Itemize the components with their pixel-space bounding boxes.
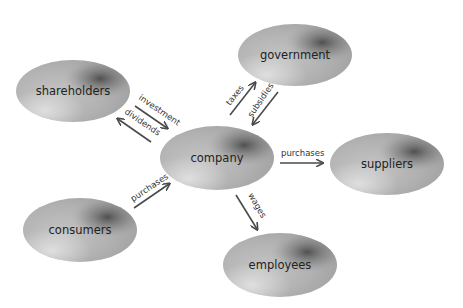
edge-wages: wages — [236, 191, 269, 229]
node-company: company — [160, 126, 274, 190]
node-label: government — [260, 48, 331, 62]
edge-purchases-consumers: purchases — [129, 171, 171, 208]
node-employees: employees — [223, 233, 337, 297]
node-shareholders: shareholders — [16, 60, 130, 122]
node-label: company — [190, 151, 243, 165]
node-label: suppliers — [361, 157, 413, 171]
node-consumers: consumers — [23, 198, 137, 262]
node-government: government — [238, 24, 352, 86]
edge-subsidies: subsidies — [245, 80, 278, 124]
flow-diagram: shareholders government company supplier… — [0, 0, 463, 308]
node-label: shareholders — [36, 84, 111, 98]
edge-purchases-suppliers: purchases — [280, 148, 325, 163]
edge-label: purchases — [281, 148, 325, 158]
edge-label: taxes — [224, 83, 246, 108]
node-label: employees — [249, 258, 312, 272]
node-label: consumers — [49, 223, 112, 237]
node-suppliers: suppliers — [330, 133, 444, 195]
